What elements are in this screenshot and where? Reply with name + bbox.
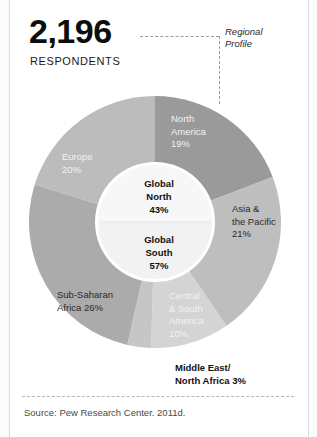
infographic-page: 2,196 RESPONDENTS RegionalProfile NorthA… bbox=[0, 0, 317, 437]
chart-callout-title: RegionalProfile bbox=[225, 26, 263, 50]
callout-leader-vertical bbox=[219, 36, 220, 104]
segment-label-asia-pacific: Asia &the Pacific21% bbox=[232, 203, 276, 241]
source-note: Source: Pew Research Center. 2011d. bbox=[24, 407, 185, 418]
segment-label-europe: Europe20% bbox=[62, 151, 93, 176]
center-label-global-north: GlobalNorth43% bbox=[113, 178, 205, 217]
respondents-count: 2,196 bbox=[29, 14, 112, 48]
page-edge-right bbox=[309, 0, 317, 437]
gutter-line-left bbox=[9, 0, 10, 437]
segment-label-central-south-america: Central& SouthAmerica10% bbox=[169, 290, 204, 340]
page-edge-left bbox=[0, 0, 9, 437]
center-label-global-south: GlobalSouth57% bbox=[113, 234, 205, 273]
segment-label-sub-saharan-africa: Sub-SaharanAfrica 26% bbox=[57, 289, 113, 314]
segment-label-middle-east-north-africa: Middle East/North Africa 3% bbox=[175, 362, 246, 387]
segment-label-north-america: NorthAmerica19% bbox=[171, 113, 206, 151]
callout-leader-horizontal bbox=[140, 36, 219, 37]
footer-divider bbox=[22, 396, 294, 397]
respondents-label: RESPONDENTS bbox=[30, 55, 120, 67]
gutter-line-right bbox=[308, 0, 309, 437]
